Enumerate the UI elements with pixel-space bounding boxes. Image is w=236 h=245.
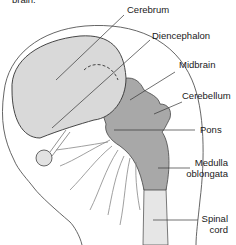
label-pons: Pons <box>200 125 222 136</box>
label-spinal-line2: cord <box>202 225 228 236</box>
eye-shape <box>36 150 52 166</box>
optic-nerve <box>50 130 70 156</box>
label-diencephalon: Diencephalon <box>152 31 210 42</box>
label-medulla-line1: Medulla <box>186 158 228 169</box>
label-cerebellum: Cerebellum <box>182 91 231 102</box>
label-cerebrum: Cerebrum <box>127 5 169 16</box>
label-spinal-cord: Spinal cord <box>202 214 228 235</box>
label-medulla-oblongata: Medulla oblongata <box>186 158 228 179</box>
label-spinal-line1: Spinal <box>202 214 228 225</box>
label-midbrain: Midbrain <box>179 60 215 71</box>
spinal-cord-shape <box>143 188 168 245</box>
label-medulla-line2: oblongata <box>186 169 228 180</box>
brain-diagram: brain. <box>0 0 236 245</box>
